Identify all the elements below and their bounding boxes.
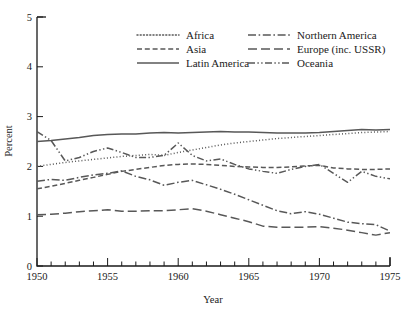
legend-label: Latin America bbox=[186, 57, 249, 69]
legend-label: Northern America bbox=[297, 29, 377, 41]
x-tick-label: 1950 bbox=[27, 271, 48, 282]
line-chart: 012345195019551960196519701975 Percent Y… bbox=[0, 0, 417, 311]
x-tick-label: 1955 bbox=[97, 271, 118, 282]
y-tick-label: 0 bbox=[27, 261, 32, 272]
chart-figure: 012345195019551960196519701975 Percent Y… bbox=[0, 0, 417, 311]
y-tick-label: 2 bbox=[27, 161, 32, 172]
y-tick-label: 3 bbox=[27, 111, 32, 122]
legend-label: Europe (inc. USSR) bbox=[297, 43, 386, 56]
x-axis-label: Year bbox=[203, 294, 223, 305]
legend-label: Oceania bbox=[297, 57, 333, 69]
legend-label: Africa bbox=[186, 29, 214, 41]
x-tick-label: 1970 bbox=[309, 271, 330, 282]
x-tick-label: 1975 bbox=[380, 271, 401, 282]
x-tick-label: 1965 bbox=[238, 271, 259, 282]
legend-label: Asia bbox=[186, 43, 206, 55]
x-tick-label: 1960 bbox=[168, 271, 189, 282]
y-tick-label: 1 bbox=[27, 211, 32, 222]
y-axis-label: Percent bbox=[3, 125, 14, 157]
y-tick-label: 4 bbox=[27, 61, 33, 72]
y-tick-label: 5 bbox=[27, 12, 32, 23]
